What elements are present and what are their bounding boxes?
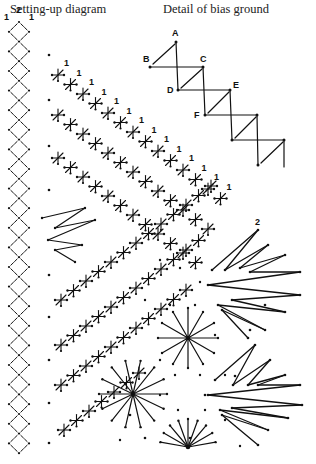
pair-label: 1 bbox=[4, 12, 9, 22]
lace-pricking-diagram: 121111111111111112ABCDEF bbox=[0, 0, 316, 464]
headside-fans: 2 bbox=[207, 217, 304, 446]
pair-label: 1 bbox=[164, 134, 169, 144]
pair-label: 1 bbox=[139, 115, 144, 125]
detail-label-d: D bbox=[167, 85, 174, 95]
pair-label-2: 2 bbox=[255, 217, 260, 227]
detail-label-f: F bbox=[194, 110, 200, 120]
pair-label: 2 bbox=[16, 5, 21, 15]
pair-label: 1 bbox=[89, 77, 94, 87]
pair-label: 1 bbox=[214, 172, 219, 182]
pair-label: 1 bbox=[102, 87, 107, 97]
detail-label-e: E bbox=[233, 80, 239, 90]
bias-ground-detail: ABCDEF bbox=[143, 28, 286, 167]
pair-label: 1 bbox=[177, 144, 182, 154]
footside-chain: 121 bbox=[4, 5, 34, 454]
pair-label: 1 bbox=[114, 96, 119, 106]
pair-label: 1 bbox=[152, 125, 157, 135]
detail-label-c: C bbox=[200, 54, 207, 64]
leaf-tally-left bbox=[41, 207, 96, 263]
detail-label-a: A bbox=[172, 28, 179, 38]
pair-label: 1 bbox=[127, 106, 132, 116]
pair-label: 1 bbox=[189, 153, 194, 163]
pair-label: 1 bbox=[77, 68, 82, 78]
pair-label: 1 bbox=[64, 58, 69, 68]
pair-label: 1 bbox=[29, 12, 34, 22]
spiders bbox=[98, 307, 219, 450]
pair-label: 1 bbox=[227, 182, 232, 192]
detail-label-b: B bbox=[143, 54, 150, 64]
pair-label: 1 bbox=[202, 163, 207, 173]
